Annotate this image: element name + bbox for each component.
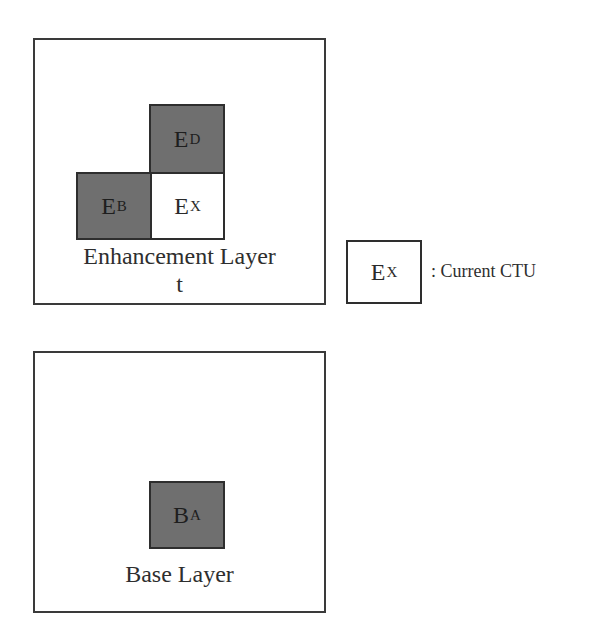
cell-b-a-main: B [173, 502, 189, 529]
legend-cell-main: E [371, 259, 386, 286]
cell-e-b-sub: B [117, 198, 127, 215]
cell-e-x-main: E [174, 193, 189, 220]
cell-e-d-main: E [174, 126, 189, 153]
legend-text: : Current CTU [431, 261, 536, 282]
cell-e-b-main: E [101, 193, 116, 220]
enhancement-layer-label-line1: Enhancement Layer [33, 242, 326, 270]
cell-e-x-sub: X [190, 198, 201, 215]
legend-cell-sub: X [386, 264, 397, 281]
cell-b-a: BA [149, 481, 225, 549]
cell-b-a-sub: A [190, 507, 201, 524]
enhancement-layer-label: Enhancement Layer t [33, 242, 326, 298]
enhancement-layer-label-line2: t [33, 270, 326, 298]
base-layer-label: Base Layer [33, 560, 326, 588]
cell-e-x: EX [150, 172, 225, 240]
legend-cell-e-x: EX [346, 240, 422, 304]
cell-e-b: EB [76, 172, 152, 240]
cell-e-d-sub: D [189, 131, 200, 148]
cell-e-d: ED [149, 104, 225, 174]
